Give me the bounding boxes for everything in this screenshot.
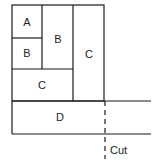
cut-label: Cut bbox=[110, 144, 127, 156]
region-label-d: D bbox=[56, 111, 64, 123]
region-label-c: C bbox=[85, 48, 93, 60]
region-label-b: B bbox=[54, 33, 61, 45]
region-label-c: C bbox=[38, 79, 46, 91]
region-label-a: A bbox=[23, 16, 31, 28]
stock-cutting-diagram: A B B C C D Cut bbox=[0, 0, 159, 161]
region-label-b: B bbox=[23, 47, 30, 59]
